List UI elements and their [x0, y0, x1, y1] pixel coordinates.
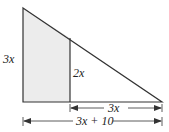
label-full-base-text: 3x + 10	[75, 114, 113, 128]
triangle-diagram: 3x 2x 3x 3x + 10	[0, 0, 169, 132]
label-right-base: 3x	[107, 101, 120, 115]
label-inner-height: 2x	[73, 66, 85, 80]
label-full-base: 3x + 10	[75, 114, 113, 128]
label-left-height: 3x	[2, 52, 15, 66]
shaded-region	[23, 8, 70, 102]
